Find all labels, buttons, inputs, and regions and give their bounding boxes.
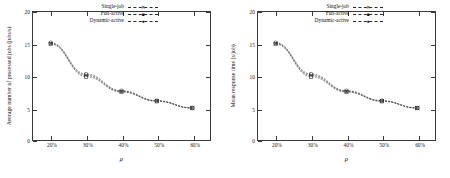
chart-panel-left: Average number of processed jobs (jobs/s… — [0, 0, 225, 178]
square-marker-icon: ■ — [366, 11, 369, 16]
y-axis-title-right: Mean response time (s/job) — [229, 11, 239, 141]
cross-marker-icon: ✕ — [366, 4, 370, 9]
legend-label-full-active-left: Full-active — [101, 11, 124, 16]
x-tick-label-50-right: 50% — [379, 143, 389, 148]
series-line-single-job — [51, 43, 193, 108]
series-line-full-active — [276, 44, 418, 108]
y-tick-label-10-right: 10 — [250, 75, 255, 80]
legend-label-full-active-right: Full-active — [326, 11, 349, 16]
series-line-single-job — [276, 43, 418, 108]
y-tick-label-0-right: 0 — [252, 139, 255, 144]
square-marker-icon: ■ — [141, 11, 144, 16]
cross-marker-icon: ✕ — [141, 4, 145, 9]
x-tick-label-20-right: 20% — [272, 143, 282, 148]
y-tick-label-5-left: 5 — [27, 108, 30, 113]
y-tick-label-0-left: 0 — [27, 139, 30, 144]
series-line-dynamic-active — [51, 43, 193, 108]
chart-panel-right: Mean response time (s/job) 20 15 10 5 0 — [225, 0, 450, 178]
legend-swatch-single-job-left: ✕ — [128, 3, 158, 10]
series-group-left-1 — [49, 42, 194, 109]
x-axis-title-right: ρ — [257, 156, 436, 163]
x-tick-label-60-right: 60% — [415, 143, 425, 148]
legend-swatch-single-job-right: ✕ — [353, 3, 383, 10]
y-axis-title-right-text: Mean response time (s/job) — [231, 44, 237, 107]
series-line-full-active — [51, 44, 193, 108]
legend-label-dynamic-active-left: Dynamic-active — [90, 18, 124, 23]
y-axis-title-left: Average number of processed jobs (jobs/s… — [4, 11, 14, 141]
y-tick-label-10-left: 10 — [25, 75, 30, 80]
legend-label-single-job-right: Single-job — [327, 4, 349, 9]
legend-item-single-job-left[interactable]: Single-job ✕ — [30, 3, 158, 10]
y-tick-label-5-right: 5 — [252, 108, 255, 113]
legend-item-single-job-right[interactable]: Single-job ✕ — [255, 3, 383, 10]
legend-label-single-job-left: Single-job — [102, 4, 124, 9]
y-axis-title-left-text: Average number of processed jobs (jobs/s… — [6, 27, 12, 126]
series-group-left-2 — [49, 41, 194, 110]
legend-item-full-active-right[interactable]: Full-active ■ — [255, 10, 383, 17]
circle-marker-icon: ● — [141, 18, 144, 23]
legend-swatch-full-active-left: ■ — [128, 10, 158, 17]
legend-label-dynamic-active-right: Dynamic-active — [315, 18, 349, 23]
legend-swatch-full-active-right: ■ — [353, 10, 383, 17]
series-canvas-right — [258, 12, 435, 140]
circle-marker-icon: ● — [366, 18, 369, 23]
series-line-dynamic-active — [276, 43, 418, 108]
series-group-right-0 — [274, 41, 419, 109]
series-canvas-left — [33, 12, 210, 140]
y-tick-0-left: 0 — [33, 141, 37, 142]
plot-area-left: 20 15 10 5 0 20% 30% — [32, 11, 211, 141]
x-tick-label-20-left: 20% — [47, 143, 57, 148]
legend-right: Single-job ✕ Full-active ■ Dynamic-activ… — [255, 3, 383, 24]
legend-item-dynamic-active-right[interactable]: Dynamic-active ● — [255, 17, 383, 24]
x-tick-label-50-left: 50% — [154, 143, 164, 148]
y-tick-label-15-right: 15 — [250, 43, 255, 48]
x-tick-label-40-left: 40% — [119, 143, 129, 148]
series-group-right-1 — [274, 42, 419, 109]
y-tick-label-15-left: 15 — [25, 43, 30, 48]
x-tick-label-30-left: 30% — [83, 143, 93, 148]
figure-two-panel-plot: Average number of processed jobs (jobs/s… — [0, 0, 450, 178]
series-group-right-2 — [274, 41, 419, 110]
series-group-left-0 — [49, 41, 194, 109]
x-tick-label-60-left: 60% — [190, 143, 200, 148]
y-tick-0-right: 0 — [258, 141, 262, 142]
legend-left: Single-job ✕ Full-active ■ Dynamic-activ… — [30, 3, 158, 24]
plot-area-right: 20 15 10 5 0 20% 30% — [257, 11, 436, 141]
x-axis-title-left: ρ — [32, 156, 211, 163]
legend-item-dynamic-active-left[interactable]: Dynamic-active ● — [30, 17, 158, 24]
x-tick-label-40-right: 40% — [344, 143, 354, 148]
legend-swatch-dynamic-active-right: ● — [353, 17, 383, 24]
legend-swatch-dynamic-active-left: ● — [128, 17, 158, 24]
x-tick-label-30-right: 30% — [308, 143, 318, 148]
legend-item-full-active-left[interactable]: Full-active ■ — [30, 10, 158, 17]
